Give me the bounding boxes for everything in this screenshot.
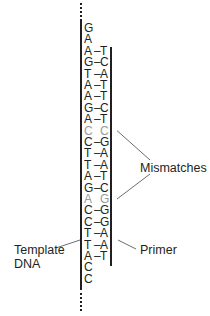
primer-label: Primer [140, 243, 177, 257]
template-dotted-end [80, 15, 82, 17]
template-dotted-end [80, 19, 82, 21]
template-dotted-end [80, 301, 82, 303]
template-dotted-end [80, 7, 82, 9]
template-dna-label: DNA [14, 257, 41, 271]
template-base: C [84, 272, 93, 286]
template-dotted-end [80, 11, 82, 13]
template-dotted-end [80, 309, 82, 311]
mismatches-label: Mismatches [140, 161, 207, 175]
template-dotted-end [80, 305, 82, 307]
primer-pointer-line [118, 240, 136, 249]
primer-base: T [100, 249, 108, 263]
template-dotted-end [80, 3, 82, 5]
template-dotted-end [80, 293, 82, 295]
template-dna-label: Template [14, 243, 65, 257]
mismatch-pointer-line [117, 174, 150, 199]
pcr-primer-diagram: GAA–TG–CT–AA–TA–TG–CA–TCCC–GT–AT–AA–TG–C… [0, 0, 210, 316]
mismatch-pointer-line [117, 131, 150, 160]
template-dotted-end [80, 297, 82, 299]
